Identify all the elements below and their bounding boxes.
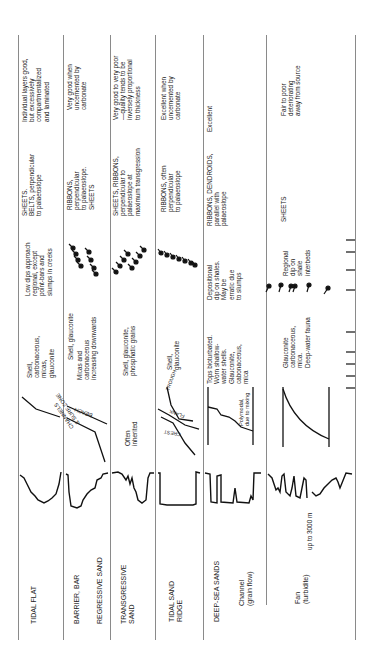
components-text: Tops bioturbated. Worn shallow- water sh…: [206, 335, 249, 384]
environment-label: TIDAL SAND RIDGE: [168, 581, 184, 622]
environment-label: TRANSGRESSIVE SAND: [120, 564, 136, 624]
row-divider: [63, 35, 64, 640]
geometry-text: RIBBONS, DENDROIDS, parallel with palaeo…: [206, 154, 228, 226]
geometry-text: SHEETS: [280, 196, 287, 222]
scale-ticks: [346, 240, 360, 440]
dips-text: Depositional dip on shales. May be errat…: [206, 261, 242, 300]
environment-sub-label: Channel (grain flow): [238, 571, 254, 606]
trend-text: Often inherited: [124, 421, 138, 446]
environment-label: TIDAL FLAT: [30, 586, 38, 624]
quality-text: Very good to very poor —quality tends to…: [112, 56, 141, 120]
dipmeter-tadpoles: [266, 280, 336, 310]
trend-diagram: [203, 385, 266, 465]
gamma-log-curve: [155, 470, 203, 540]
components-sub-text: Micas and carbonaceous increasing downwa…: [76, 317, 98, 380]
quality-text: Individual layers good, but excessively …: [21, 58, 50, 122]
svg-text:TROUGH: TROUGH: [164, 369, 177, 392]
dipmeter-tadpoles: [110, 240, 155, 280]
components-text: Shell, glauconite, phosphatic grains: [122, 326, 136, 376]
row-divider: [155, 35, 156, 640]
row-divider: [18, 35, 19, 640]
trend-text: Polymodal, due to mixing: [238, 393, 250, 426]
geometry-text: SHEETS. BELTS, perpendicular to palaeosl…: [21, 154, 43, 216]
quality-text: Excellent: [206, 106, 213, 132]
dipmeter-tadpoles: [155, 245, 203, 275]
geometry-text: RIBBONS, perpendicular to palaeoslope. S…: [66, 167, 95, 210]
trend-diagram: TROUGH FLANK CREST: [155, 385, 203, 465]
dips-text: Low dips approach regional, except point…: [24, 242, 53, 296]
gamma-log-curve: [18, 470, 63, 540]
quality-text: Fair to poor deteriorating away from sou…: [280, 66, 302, 116]
svg-text:CREST: CREST: [163, 429, 181, 438]
row-divider: [110, 35, 111, 640]
components-text: Shell, carbonaceous, micas, glauconite: [26, 336, 55, 378]
geometry-text: SHEETS, RIBBONS, perpendicular to palaeo…: [112, 148, 141, 216]
dipmeter-tadpoles: [63, 240, 110, 290]
row-divider: [203, 35, 204, 640]
dips-text: Regional dip on shale interbeds: [282, 250, 311, 276]
environment-label: DEEP-SEA SANDS: [213, 561, 221, 622]
gamma-log-curve: [110, 470, 155, 540]
environment-sub-label: REGRESSIVE SAND: [96, 557, 104, 624]
log-depth-note: up to 3000 m: [306, 513, 313, 550]
components-text: Glauconite carbonaceous, mica. Deep-wate…: [282, 317, 311, 368]
gamma-log-curve: [203, 470, 266, 540]
environment-label: BARRIER, BAR: [73, 575, 81, 624]
gamma-log-curve: [63, 470, 110, 540]
components-text: Shell, glauconite: [67, 313, 74, 360]
quality-text: Excellent when uncemented by carbonate: [160, 76, 182, 120]
components-text: Shell, glauconite: [166, 341, 180, 370]
geometry-text: RIBBONS, often perpendicular to palaeosl…: [160, 165, 182, 212]
svg-text:FLANK: FLANK: [168, 408, 186, 419]
trend-diagram: [266, 385, 336, 465]
quality-text: Very good when uncemented by carbonate: [66, 64, 88, 110]
environment-sub-label: Fan (turbidite): [294, 574, 310, 604]
